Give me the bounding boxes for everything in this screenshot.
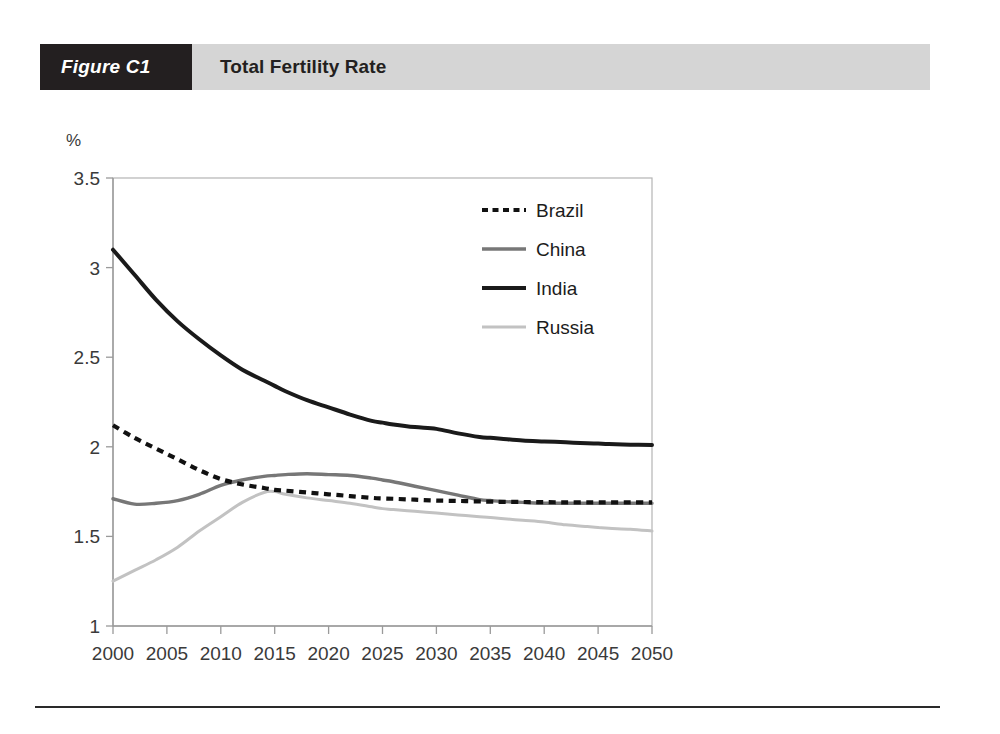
x-tick-label: 2010	[200, 643, 242, 664]
x-tick-label: 2035	[469, 643, 511, 664]
data-series-layer	[113, 250, 652, 582]
legend-label-brazil: Brazil	[536, 200, 584, 221]
x-tick-label: 2040	[523, 643, 565, 664]
x-tick-label: 2025	[361, 643, 403, 664]
legend-label-russia: Russia	[536, 317, 595, 338]
y-tick-label: 1.5	[74, 526, 100, 547]
x-tick-label: 2030	[415, 643, 457, 664]
x-tick-label: 2050	[631, 643, 673, 664]
y-tick-label: 2	[89, 437, 100, 458]
x-tick-label: 2000	[92, 643, 134, 664]
legend-item-brazil: Brazil	[482, 200, 584, 221]
y-axis-ticks: 11.522.533.5	[74, 168, 113, 637]
chart-container: % 11.522.533.5 2000200520102015202020252…	[0, 100, 1000, 680]
legend-label-india: India	[536, 278, 578, 299]
footer-divider-rule	[35, 706, 940, 708]
x-tick-label: 2015	[254, 643, 296, 664]
y-axis-unit-label: %	[66, 131, 81, 150]
x-axis-ticks: 2000200520102015202020252030203520402045…	[92, 626, 673, 664]
line-chart: % 11.522.533.5 2000200520102015202020252…	[0, 100, 1000, 680]
legend-item-russia: Russia	[482, 317, 595, 338]
series-line-brazil	[113, 425, 652, 502]
figure-title: Total Fertility Rate	[192, 44, 930, 90]
chart-legend: BrazilChinaIndiaRussia	[482, 200, 595, 338]
series-line-china	[113, 474, 652, 505]
y-tick-label: 3	[89, 258, 100, 279]
y-tick-label: 1	[89, 616, 100, 637]
legend-item-india: India	[482, 278, 578, 299]
figure-number-tag: Figure C1	[40, 44, 192, 90]
figure-header-banner: Figure C1 Total Fertility Rate	[40, 44, 930, 90]
y-tick-label: 3.5	[74, 168, 100, 189]
y-tick-label: 2.5	[74, 347, 100, 368]
x-tick-label: 2005	[146, 643, 188, 664]
legend-label-china: China	[536, 239, 586, 260]
x-tick-label: 2045	[577, 643, 619, 664]
x-tick-label: 2020	[307, 643, 349, 664]
legend-item-china: China	[482, 239, 586, 260]
